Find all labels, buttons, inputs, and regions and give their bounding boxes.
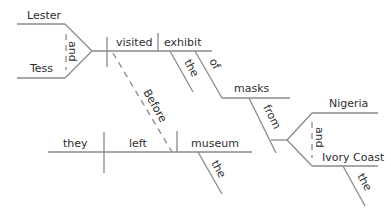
word-masks: masks <box>234 82 270 95</box>
word-before: Before <box>140 87 169 125</box>
word-exhibit: exhibit <box>164 36 202 49</box>
word-visited: visited <box>116 36 152 49</box>
prep-phrase-from: from Nigeria Ivory Coast and the <box>249 97 385 206</box>
word-ivory-coast: Ivory Coast <box>322 151 385 164</box>
modifier-the-exhibit: the <box>170 51 202 92</box>
compound-fork-upper <box>287 113 312 140</box>
sentence-diagram: Lester Tess and visited exhibit the of m… <box>0 0 391 217</box>
word-tess: Tess <box>29 62 53 75</box>
word-they: they <box>63 137 88 150</box>
word-the-2: the <box>208 158 228 180</box>
word-museum: museum <box>191 137 239 150</box>
word-lester: Lester <box>27 9 62 22</box>
subordinate-baseline: they left museum the <box>48 131 252 194</box>
word-and-subjects: and <box>66 41 79 62</box>
word-and-objects: and <box>313 127 326 148</box>
word-the-3: the <box>354 171 374 193</box>
word-nigeria: Nigeria <box>329 97 368 110</box>
word-of: of <box>206 56 223 73</box>
compound-subject: Lester Tess and <box>17 9 92 78</box>
compound-fork-lower <box>287 140 312 166</box>
word-left: left <box>129 137 148 150</box>
prep-phrase-of: of masks <box>195 51 290 98</box>
